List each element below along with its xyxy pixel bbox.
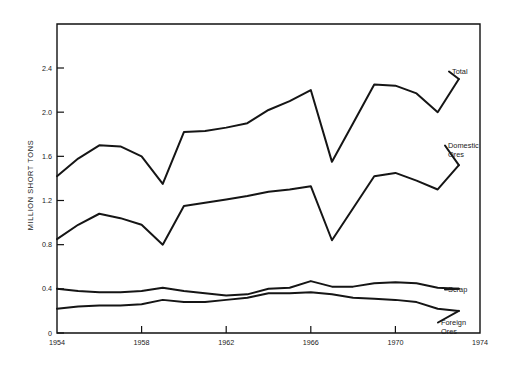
y-tick-label: 2.0: [42, 108, 52, 117]
series-label-line: Domestic: [448, 141, 479, 150]
x-tick-label: 1974: [472, 338, 488, 347]
x-tick-label: 1958: [134, 338, 150, 347]
series-label-scrap: Scrap: [448, 285, 467, 294]
x-tick-label: 1970: [387, 338, 403, 347]
y-axis-title: MILLION SHORT TONS: [26, 140, 35, 230]
series-label-line: Ores: [441, 327, 457, 336]
y-tick-label: 1.6: [42, 152, 52, 161]
series-label-line: Ores: [448, 150, 464, 159]
y-tick-label: 0.8: [42, 240, 52, 249]
x-tick-label: 1954: [49, 338, 65, 347]
line-chart: 00.40.81.21.62.02.4 19541958196219661970…: [0, 0, 506, 366]
x-tick-label: 1966: [303, 338, 319, 347]
series-label-total: Total: [452, 67, 468, 76]
y-tick-label: 2.4: [42, 64, 52, 73]
y-tick-label: 0.4: [42, 284, 52, 293]
chart-container: 00.40.81.21.62.02.4 19541958196219661970…: [0, 0, 506, 366]
y-tick-label: 0: [48, 329, 52, 338]
series-label-line: Foreign: [441, 318, 466, 327]
chart-background: [0, 0, 506, 366]
y-tick-label: 1.2: [42, 196, 52, 205]
x-tick-label: 1962: [218, 338, 234, 347]
